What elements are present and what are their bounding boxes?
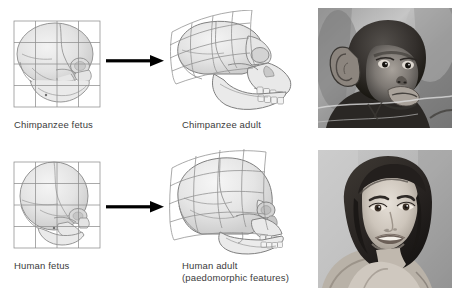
human-adult-skull-diagram: [158, 148, 298, 256]
human-transformation-arrow: [104, 198, 166, 216]
arrow-right-icon: [104, 198, 166, 216]
human-fetus-skull-panel: [10, 158, 104, 252]
chimpanzee-adult-skull-panel: [158, 10, 298, 115]
skull-drawing: [17, 23, 93, 102]
human-photo: [318, 150, 452, 288]
chimpanzee-adult-caption: Chimpanzee adult: [182, 119, 332, 131]
chimpanzee-fetus-caption: Chimpanzee fetus: [14, 119, 144, 131]
chimpanzee-photo: [318, 8, 452, 128]
chimpanzee-fetus-skull-diagram: [10, 18, 104, 110]
chimpanzee-transformation-arrow: [104, 52, 166, 70]
arrow-right-icon: [104, 52, 166, 70]
human-fetus-skull-diagram: [10, 158, 104, 252]
chimpanzee-adult-skull-diagram: [158, 10, 298, 115]
chimpanzee-fetus-skull-panel: [10, 18, 104, 110]
human-fetus-caption: Human fetus: [14, 260, 144, 272]
human-adult-skull-panel: [158, 148, 298, 256]
paedomorphosis-figure: Chimpanzee fetus: [0, 0, 455, 298]
chimpanzee-photograph-image: [318, 8, 452, 128]
human-photograph-image: [318, 150, 452, 288]
